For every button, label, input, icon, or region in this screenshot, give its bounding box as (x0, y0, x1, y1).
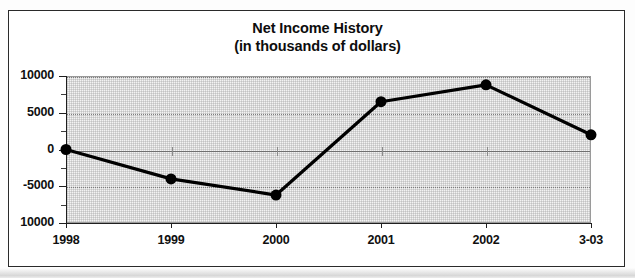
chart-outer-frame: Net Income History (in thousands of doll… (8, 10, 625, 267)
gridline-10000 (67, 77, 590, 78)
y-tick-major-0 (59, 150, 66, 151)
plot-halftone-texture (67, 77, 590, 222)
x-axis-label-2000: 2000 (241, 233, 311, 247)
x-tick-2002 (486, 223, 487, 228)
y-tick-minor-2500 (61, 131, 66, 132)
y-tick-minor--7500 (61, 205, 66, 206)
x-tick-1998 (66, 223, 67, 228)
gridline-5000 (67, 114, 590, 115)
y-tick-major--10000 (59, 223, 66, 224)
x-axis-line (66, 223, 592, 224)
y-tick-major--5000 (59, 186, 66, 187)
gridline--5000 (67, 187, 590, 188)
x-axis-label-2002: 2002 (451, 233, 521, 247)
chart-subtitle: (in thousands of dollars) (9, 37, 626, 55)
category-tick-2002 (487, 147, 488, 156)
y-axis-label--5000: -5000 (0, 178, 54, 192)
scan-smudge (0, 268, 635, 278)
y-axis-label-5000: 5000 (0, 105, 54, 119)
x-axis-label-1999: 1999 (136, 233, 206, 247)
y-tick-major-5000 (59, 113, 66, 114)
x-tick-2000 (276, 223, 277, 228)
x-tick-3-03 (591, 223, 592, 228)
category-tick-2000 (277, 147, 278, 156)
category-tick-1999 (172, 147, 173, 156)
x-tick-1999 (171, 223, 172, 228)
x-axis-label-3-03: 3-03 (556, 233, 626, 247)
plot-area (66, 76, 591, 223)
y-tick-minor-7500 (61, 94, 66, 95)
x-axis-label-1998: 1998 (31, 233, 101, 247)
y-tick-minor--2500 (61, 168, 66, 169)
category-tick-2001 (382, 147, 383, 156)
y-axis-label--10000: 10000 (0, 215, 54, 229)
y-axis-label-10000: 10000 (0, 68, 54, 82)
y-axis-label-0: 0 (0, 142, 54, 156)
x-tick-2001 (381, 223, 382, 228)
y-axis-line (66, 76, 67, 224)
x-axis-label-2001: 2001 (346, 233, 416, 247)
y-tick-major-10000 (59, 76, 66, 77)
chart-title: Net Income History (9, 19, 626, 37)
gridline-0 (67, 151, 590, 152)
chart-title-block: Net Income History (in thousands of doll… (9, 19, 626, 55)
figure-root: Net Income History (in thousands of doll… (0, 0, 635, 278)
